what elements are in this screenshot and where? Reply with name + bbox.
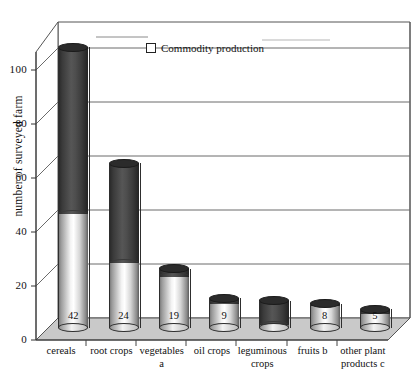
bar-cylinder (159, 264, 189, 332)
bar-value-label: 5 (360, 310, 390, 321)
y-axis-ticks (31, 70, 36, 340)
y-tick-0: 0 (2, 334, 27, 345)
x-axis-label-line1: other plant (332, 345, 394, 358)
legend-label: Commodity production (161, 42, 264, 54)
y-axis-title: number of surveyed farm (12, 76, 24, 236)
chart-legend: Commodity production (146, 42, 264, 54)
bar-value-label: 24 (109, 310, 139, 321)
y-tick-20: 20 (2, 280, 27, 291)
x-axis-label-line2: products c (332, 358, 394, 370)
bar-outline (259, 301, 291, 328)
bar-outline (58, 47, 90, 328)
x-axis-label-line2: a (131, 358, 193, 370)
left-wall (36, 22, 58, 340)
bar-cylinder (259, 296, 289, 332)
bar-cylinder (109, 159, 139, 333)
legend-swatch-icon (146, 43, 156, 53)
bar-outline (109, 163, 141, 328)
bar-value-label: 19 (159, 310, 189, 321)
x-axis-label: other plantproducts c (332, 345, 394, 370)
x-axis-label-line2: crops (231, 358, 293, 370)
bar-cylinder (58, 43, 88, 333)
bar-value-label: 9 (209, 310, 239, 321)
bar-value-label: 42 (58, 310, 88, 321)
y-tick-100: 100 (0, 64, 27, 75)
bar-value-label: 8 (310, 310, 340, 321)
